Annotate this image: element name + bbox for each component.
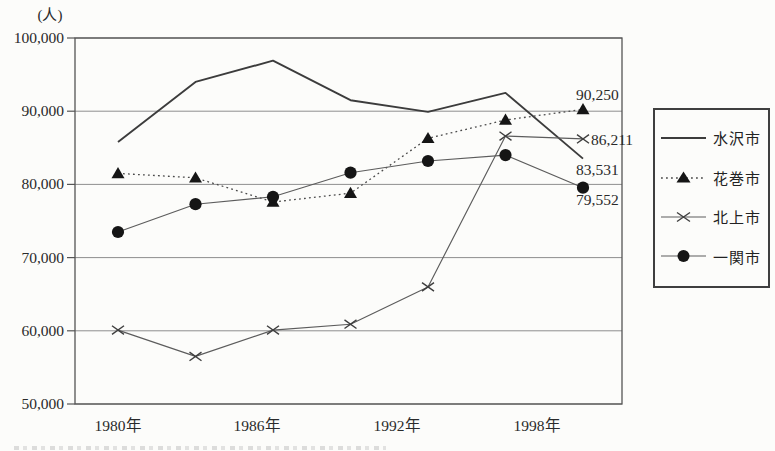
legend-label-kitakami: 北上市	[713, 206, 761, 227]
scanned-chart-page: (人) 90,25086,21183,53179,552 100,000 90,…	[0, 0, 775, 451]
circle-marker	[499, 149, 511, 161]
triangle-marker	[344, 187, 357, 198]
x-tick-1998: 1998年	[514, 417, 561, 434]
y-axis-tick-labels: 100,000 90,000 80,000 70,000 60,000 50,0…	[14, 29, 65, 412]
circle-marker	[189, 198, 201, 210]
x-marker	[422, 283, 434, 292]
x-tick-1986: 1986年	[234, 417, 281, 434]
circle-marker	[344, 167, 356, 179]
circle-marker-line-sample-icon	[660, 248, 708, 264]
x-tick-1980: 1980年	[95, 417, 142, 434]
y-tick-90000: 90,000	[21, 102, 64, 119]
circle-marker	[267, 191, 279, 203]
y-tick-100000: 100,000	[14, 29, 65, 46]
solid-line-sample-icon	[660, 130, 708, 146]
series-lines	[118, 61, 583, 357]
y-tick-80000: 80,000	[21, 175, 64, 192]
legend-label-hanamaki: 花巻市	[713, 167, 761, 188]
legend-box: 水沢市 花巻市 北上市 一関市	[653, 108, 770, 288]
legend-item-mizusawa: 水沢市	[660, 127, 766, 148]
legend-label-ichinoseki: 一関市	[713, 246, 761, 267]
series-markers	[112, 103, 590, 361]
x-axis-tick-labels: 1980年 1986年 1992年 1998年	[95, 417, 561, 434]
end-value-label: 83,531	[576, 161, 619, 178]
circle-marker	[422, 155, 434, 167]
x-marker	[112, 326, 124, 335]
triangle-marker	[112, 167, 125, 178]
triangle-marker	[577, 103, 590, 114]
triangle-marker	[189, 171, 202, 182]
circle-marker	[112, 226, 124, 238]
legend-item-ichinoseki: 一関市	[660, 246, 766, 267]
dotted-line-triangle-sample-icon	[660, 169, 708, 185]
legend-label-mizusawa: 水沢市	[713, 127, 761, 148]
y-tick-70000: 70,000	[21, 249, 64, 266]
x-tick-1992: 1992年	[374, 417, 421, 434]
cropped-caption-fragment	[14, 446, 386, 450]
series-line-0	[118, 61, 583, 159]
end-value-label: 90,250	[576, 86, 619, 103]
end-value-label: 86,211	[591, 131, 633, 148]
x-marker-line-sample-icon	[660, 209, 708, 225]
x-marker	[190, 352, 202, 361]
y-tick-50000: 50,000	[21, 395, 64, 412]
y-tick-60000: 60,000	[21, 322, 64, 339]
plot-frame	[75, 38, 622, 404]
y-axis-unit-label: (人)	[38, 7, 63, 24]
end-value-label: 79,552	[576, 191, 619, 208]
legend-item-hanamaki: 花巻市	[660, 167, 766, 188]
legend-item-kitakami: 北上市	[660, 206, 766, 227]
